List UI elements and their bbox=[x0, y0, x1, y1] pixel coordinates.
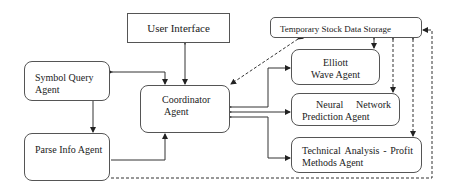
elliott-label-line1: Elliott bbox=[292, 57, 379, 69]
technical-label-word1: Technical bbox=[302, 145, 341, 157]
coordinator-agent-node: Coordinator Agent bbox=[140, 85, 230, 133]
technical-label-word3: - bbox=[383, 145, 386, 157]
parse-info-label: Parse Info Agent bbox=[35, 144, 109, 156]
edge-coordinator-technical bbox=[231, 117, 290, 158]
coordinator-label-line2: Agent bbox=[162, 106, 229, 118]
elliott-label-line2: Wave Agent bbox=[292, 69, 379, 81]
temporary-storage-label: Temporary Stock Data Storage bbox=[280, 24, 391, 34]
coordinator-label-line1: Coordinator bbox=[162, 94, 229, 106]
user-interface-node: User Interface bbox=[127, 13, 230, 43]
neural-label-word2: Network bbox=[356, 99, 391, 111]
temporary-storage-node: Temporary Stock Data Storage bbox=[270, 17, 422, 38]
neural-label-word1: Neural bbox=[316, 99, 343, 111]
parse-info-agent-node: Parse Info Agent bbox=[24, 133, 110, 181]
symbol-query-label-line2: Agent bbox=[35, 84, 109, 96]
technical-label-word4: Profit bbox=[390, 145, 413, 157]
edge-symbol-coordinator bbox=[112, 72, 165, 84]
edge-coordinator-elliott bbox=[231, 68, 290, 107]
user-interface-label: User Interface bbox=[147, 22, 210, 34]
elliott-wave-agent-node: Elliott Wave Agent bbox=[291, 49, 380, 85]
symbol-query-label-line1: Symbol Query bbox=[35, 72, 109, 84]
edge-storage-coordinator bbox=[231, 39, 298, 84]
edge-parse-coordinator bbox=[111, 134, 165, 160]
technical-label-line2: Methods Agent bbox=[302, 157, 413, 169]
neural-label-line2: Prediction Agent bbox=[302, 111, 391, 123]
neural-network-agent-node: Neural Network Prediction Agent bbox=[291, 93, 400, 126]
technical-label-word2: Analysis bbox=[344, 145, 379, 157]
symbol-query-agent-node: Symbol Query Agent bbox=[24, 61, 110, 101]
technical-analysis-agent-node: Technical Analysis - Profit Methods Agen… bbox=[291, 137, 422, 173]
